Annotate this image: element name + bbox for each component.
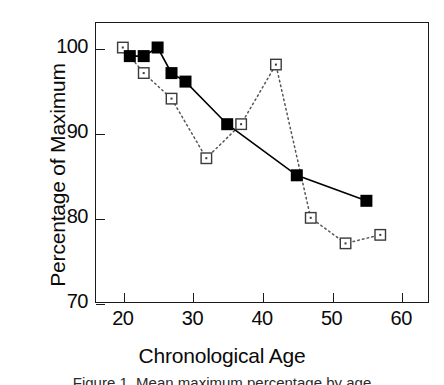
figure-caption: Figure 1. Mean maximum percentage by age [0,374,444,385]
open-square-center-dot [310,217,312,219]
open-square-center-dot [122,47,124,49]
filled-square-series-line [130,48,367,201]
filled-square-data-point [152,42,164,54]
open-square-series-line [123,48,381,244]
open-square-center-dot [345,242,347,244]
open-square-center-dot [205,157,207,159]
open-square-center-dot [143,72,145,74]
filled-square-data-point [221,118,233,130]
open-square-series-points [118,42,386,248]
open-square-center-dot [275,64,277,66]
x-axis-title: Chronological Age [0,344,444,368]
filled-square-data-point [166,67,178,79]
filled-square-data-point [138,50,150,62]
filled-square-data-point [360,195,372,207]
data-series-layer [0,0,444,385]
filled-square-data-point [124,50,136,62]
open-square-center-dot [171,98,173,100]
filled-square-data-point [180,76,192,88]
open-square-center-dot [240,123,242,125]
open-square-center-dot [379,234,381,236]
filled-square-data-point [291,169,303,181]
filled-square-series-points [124,42,373,207]
figure-chart: Percentage of Maximum 708090100 20304050… [0,0,444,385]
